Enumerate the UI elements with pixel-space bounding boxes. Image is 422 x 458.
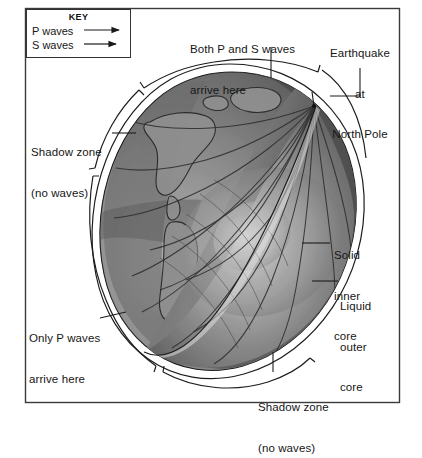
label-outer-core-line1: Liquid [340,300,371,314]
label-only-p-waves-line1: Only P waves [29,332,100,346]
label-shadow-zone-bottom-line2: (no waves) [258,442,329,456]
label-shadow-zone-left-line2: (no waves) [31,187,102,201]
label-both-waves-line1: Both P and S waves [190,43,295,57]
label-both-waves-line2: arrive here [190,84,295,98]
label-earthquake-line1: Earthquake [320,47,400,61]
label-shadow-zone-bottom: Shadow zone (no waves) [258,374,329,458]
label-earthquake: Earthquake at North Pole [320,20,400,169]
key-arrows [27,10,130,57]
label-both-waves: Both P and S waves arrive here [190,16,295,124]
label-shadow-zone-left: Shadow zone (no waves) [31,119,102,227]
label-shadow-zone-left-line1: Shadow zone [31,146,102,160]
key-legend-box: KEY P waves S waves [26,9,131,58]
label-only-p-waves-line2: arrive here [29,373,100,387]
label-shadow-zone-bottom-line1: Shadow zone [258,401,329,415]
label-inner-core-line1: Solid [334,249,360,263]
label-only-p-waves: Only P waves arrive here [29,305,100,413]
label-outer-core: Liquid outer core [340,273,371,422]
label-outer-core-line3: core [340,381,371,395]
label-outer-core-line2: outer [340,341,371,355]
label-earthquake-line3: North Pole [320,128,400,142]
label-earthquake-line2: at [320,88,400,102]
